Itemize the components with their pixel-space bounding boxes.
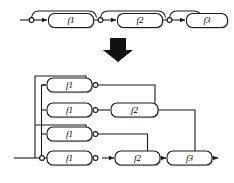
junction-node xyxy=(40,156,45,161)
block-label: f1 xyxy=(66,105,73,115)
block-label: f1 xyxy=(66,153,73,163)
block-label: f2 xyxy=(134,153,142,163)
block-label: f3 xyxy=(203,15,211,25)
block-f2-top[interactable]: f2 xyxy=(118,14,164,29)
junction-node xyxy=(93,132,98,137)
junction-node xyxy=(93,83,98,88)
junction-node xyxy=(167,18,172,23)
junction-node xyxy=(98,18,103,23)
figure-canvas: f1 f2 f3 xyxy=(0,0,234,183)
block-row4-f1[interactable]: f1 xyxy=(47,151,93,166)
top-chain-group: f1 f2 f3 xyxy=(20,11,229,29)
block-f1-top[interactable]: f1 xyxy=(49,14,95,29)
block-row4-f3[interactable]: f3 xyxy=(167,151,213,166)
block-row4-f2[interactable]: f2 xyxy=(115,151,161,166)
block-label: f2 xyxy=(136,15,144,25)
top-chain-blocks: f1 f2 f3 xyxy=(49,14,229,29)
junction-node xyxy=(93,108,98,113)
block-f3-top[interactable]: f3 xyxy=(187,14,229,29)
unrolled-nodes xyxy=(40,83,198,161)
block-label: f3 xyxy=(186,153,194,163)
unrolled-group: f1 f1 f2 f1 f1 xyxy=(14,76,218,166)
unrolled-blocks: f1 f1 f2 f1 f1 xyxy=(47,78,213,166)
block-label: f1 xyxy=(66,129,73,139)
down-arrow-icon xyxy=(103,38,133,62)
junction-node xyxy=(93,156,98,161)
block-label: f2 xyxy=(131,105,139,115)
junction-node xyxy=(29,18,34,23)
block-label: f1 xyxy=(66,80,73,90)
block-row1-f1[interactable]: f1 xyxy=(47,78,93,93)
block-label: f1 xyxy=(67,15,74,25)
block-row3-f1[interactable]: f1 xyxy=(47,127,93,142)
block-row2-f1[interactable]: f1 xyxy=(47,103,93,118)
block-diagram: f1 f2 f3 xyxy=(0,0,234,183)
block-row2-f2[interactable]: f2 xyxy=(111,103,159,118)
